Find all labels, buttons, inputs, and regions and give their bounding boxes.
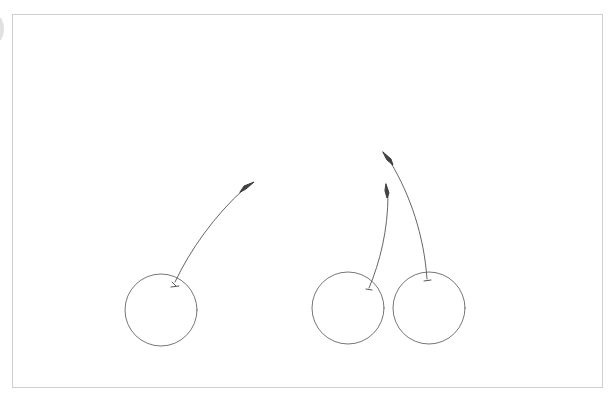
stem-2-base-icon bbox=[366, 289, 372, 290]
drawing-stage bbox=[0, 0, 615, 397]
cherry-2 bbox=[312, 272, 384, 344]
stem-1-base-icon bbox=[171, 282, 179, 287]
stem-1-tip-icon bbox=[240, 182, 254, 192]
stem-3-tip-icon bbox=[383, 152, 393, 165]
cherries-drawing bbox=[0, 0, 615, 397]
stem-2 bbox=[369, 195, 388, 288]
stem-3-base-icon bbox=[424, 280, 431, 281]
stem-3 bbox=[391, 163, 427, 279]
stem-1 bbox=[175, 189, 244, 282]
cherry-1 bbox=[125, 274, 197, 346]
cherry-3 bbox=[393, 272, 465, 344]
